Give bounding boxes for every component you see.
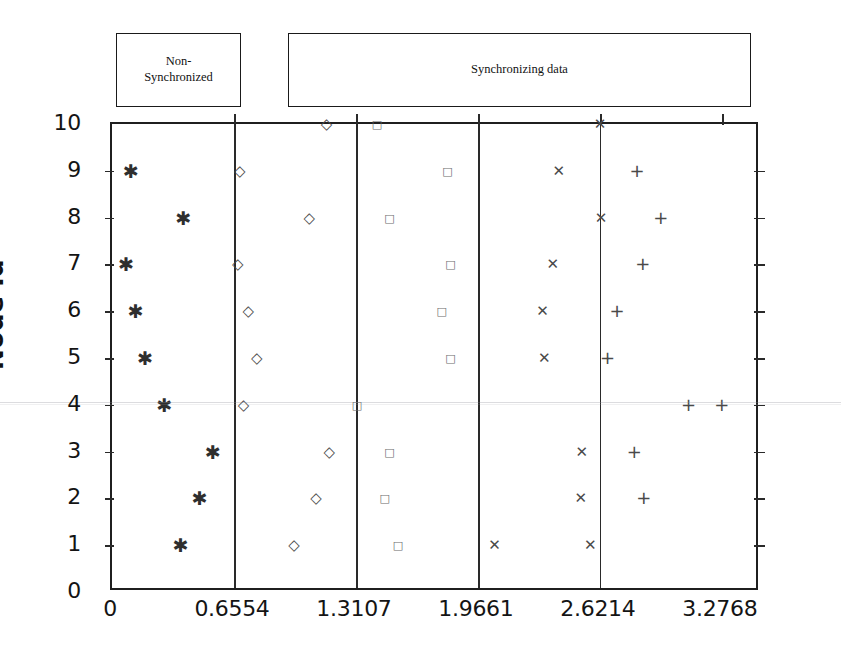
y-tick-label-3: 3 [35,437,81,462]
y-tick-mark-right-5 [754,358,765,360]
panel-divider-3 [478,124,480,588]
panel-divider-4 [600,124,602,588]
data-point-cross-node-2: ✕ [575,491,588,506]
y-tick-label-5: 5 [35,344,81,369]
y-tick-mark-9 [105,171,114,173]
y-tick-mark-7 [105,264,114,266]
x-tick-mark-1.3107 [356,114,358,125]
y-tick-mark-right-1 [754,545,765,547]
annotation-line-1: Non- [144,54,213,70]
data-point-cross-node-5: ✕ [538,351,551,366]
y-tick-mark-right-7 [754,264,765,266]
annotation-line-2: Synchronized [144,70,213,86]
data-point-asterisk-node-5: ✱ [137,349,153,368]
data-point-diamond-node-9: ◇ [234,163,246,178]
data-point-cross-node-7: ✕ [547,257,560,272]
panel-divider-1 [234,124,236,588]
data-point-asterisk-node-6: ✱ [128,302,144,321]
data-point-asterisk-node-8: ✱ [176,208,192,227]
data-point-diamond-node-3: ◇ [323,444,335,459]
data-point-plus-node-2: + [636,489,651,507]
data-point-square-node-2: □ [379,493,389,504]
data-point-plus-node-6: + [610,302,625,320]
scan-artifact-line-secondary [0,404,841,405]
annotation-box-non-synchronized: Non- Synchronized [116,33,241,107]
y-tick-label-0: 0 [35,578,81,603]
x-tick-label-0.6554: 0.6554 [194,596,269,621]
data-point-diamond-node-1: ◇ [288,538,300,553]
data-point-diamond-node-10: ◇ [321,117,333,132]
y-tick-mark-right-9 [754,171,765,173]
data-point-asterisk-node-1: ✱ [173,536,189,555]
y-tick-mark-4 [105,405,114,407]
data-point-diamond-node-6: ◇ [242,304,254,319]
data-point-cross-node-1: ✕ [584,538,597,553]
y-tick-mark-right-4 [754,405,765,407]
y-tick-label-4: 4 [35,390,81,415]
scan-artifact-line [0,402,841,403]
data-point-asterisk-node-7: ✱ [118,255,134,274]
y-tick-mark-2 [105,498,114,500]
data-point-diamond-node-5: ◇ [251,351,263,366]
y-tick-label-7: 7 [35,250,81,275]
y-tick-label-9: 9 [35,156,81,181]
y-tick-mark-8 [105,218,114,220]
data-point-square-node-5: □ [445,353,455,364]
y-tick-label-10: 10 [35,110,81,135]
data-point-square-node-8: □ [384,212,394,223]
y-tick-label-6: 6 [35,297,81,322]
y-tick-mark-right-8 [754,218,765,220]
y-tick-mark-right-3 [754,452,765,454]
x-tick-mark-2.6214 [600,114,602,125]
data-point-plus-node-7: + [635,255,650,273]
y-tick-mark-6 [105,311,114,313]
y-tick-mark-right-2 [754,498,765,500]
x-tick-label-2.6214: 2.6214 [560,596,635,621]
data-point-square-node-1: □ [393,540,403,551]
data-point-cross-node-1: ✕ [488,538,501,553]
x-tick-mark-1.9661 [478,114,480,125]
y-tick-mark-1 [105,545,114,547]
data-point-square-node-7: □ [445,259,455,270]
y-tick-label-1: 1 [35,531,81,556]
x-tick-label-1.3107: 1.3107 [316,596,391,621]
data-point-diamond-node-8: ◇ [304,210,316,225]
y-tick-mark-right-6 [754,311,765,313]
scatter-chart-figure: Non- Synchronized Synchronizing data Nod… [0,0,841,666]
data-point-plus-node-5: + [600,349,615,367]
data-point-diamond-node-2: ◇ [310,491,322,506]
data-point-square-node-6: □ [437,306,447,317]
data-point-asterisk-node-3: ✱ [205,442,221,461]
x-tick-label-1.9661: 1.9661 [438,596,513,621]
data-point-plus-node-9: + [630,162,645,180]
x-tick-label-3.2768: 3.2768 [682,596,757,621]
y-axis-title: Node Id [0,259,9,370]
data-point-plus-node-3: + [627,443,642,461]
annotation-text-non-synchronized: Non- Synchronized [144,54,213,85]
y-tick-label-2: 2 [35,484,81,509]
annotation-text-synchronizing-data: Synchronizing data [471,62,568,78]
x-tick-label-0: 0 [103,596,117,621]
x-tick-mark-3.2768 [722,114,724,125]
y-tick-mark-5 [105,358,114,360]
data-point-cross-node-6: ✕ [536,304,549,319]
data-point-square-node-10: □ [372,119,382,130]
y-tick-label-8: 8 [35,203,81,228]
data-point-square-node-3: □ [384,446,394,457]
y-tick-mark-3 [105,452,114,454]
panel-divider-2 [356,124,358,588]
data-point-asterisk-node-2: ✱ [192,489,208,508]
data-point-cross-node-3: ✕ [575,444,588,459]
x-tick-mark-0.6554 [234,114,236,125]
data-point-asterisk-node-9: ✱ [123,161,139,180]
data-point-cross-node-9: ✕ [552,163,565,178]
data-point-square-node-9: □ [442,165,452,176]
data-point-plus-node-8: + [653,209,668,227]
plot-area: ✱✱✱✱✱✱✱✱✱◇◇◇◇◇◇◇◇◇◇□□□□□□□□□□✕✕✕✕✕✕✕✕✕✕+… [110,122,758,590]
annotation-box-synchronizing-data: Synchronizing data [288,33,751,107]
